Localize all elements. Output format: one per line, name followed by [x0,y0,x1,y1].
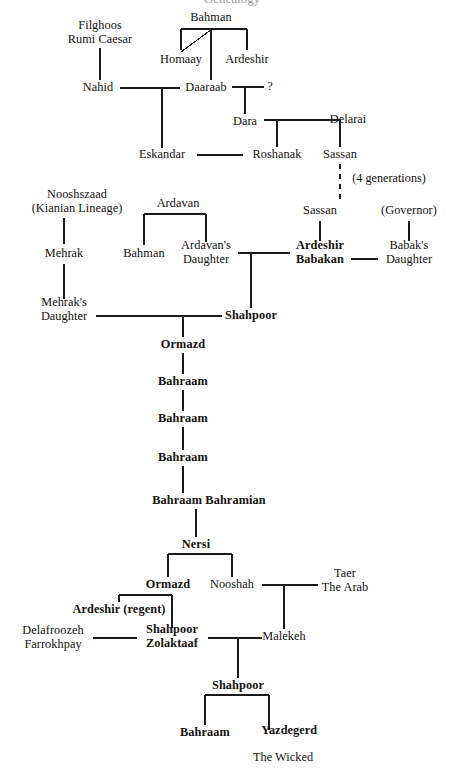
node-four-generations-note: (4 generations) [352,172,426,186]
node-nooshszaad: Nooshszaad (Kianian Lineage) [32,188,123,216]
node-ardeshir-babakan: Ardeshir Babakan [296,239,344,267]
cropped-heading: Genealogy [204,0,260,7]
node-babaks-daughter: Babak's Daughter [386,239,432,267]
node-ardavan: Ardavan [157,197,200,211]
node-bahman-second: Bahman [123,247,164,261]
line-homaay-diagonal [181,29,212,52]
node-homaay: Homaay [160,53,202,67]
node-governor: (Governor) [381,204,437,218]
node-nersi: Nersi [182,538,211,552]
node-filghoos: Filghoos Rumi Caesar [68,19,132,47]
node-shahpoor-second: Shahpoor [212,679,264,693]
node-nooshah: Nooshah [210,578,254,592]
node-ardavans-daughter: Ardavan's Daughter [181,239,231,267]
yazdegerd-epithet: The Wicked [253,751,313,765]
node-delafroozeh-farrokhpay: Delafroozeh Farrokhpay [22,624,83,652]
node-dara: Dara [233,115,257,129]
node-yazdegerd-the-wicked: Yazdegerd The Wicked [249,710,317,765]
connector-lines [0,0,463,772]
node-daaraab: Daaraab [185,81,226,95]
node-nahid: Nahid [83,81,113,95]
node-mehraks-daughter: Mehrak's Daughter [41,296,87,324]
node-ormazd-first: Ormazd [161,338,205,352]
node-sassan-first: Sassan [323,148,357,162]
node-ardeshir-top: Ardeshir [225,53,268,67]
node-bahraam-first: Bahraam [158,375,208,389]
node-roshanak: Roshanak [253,148,302,162]
node-ormazd-second: Ormazd [146,578,190,592]
node-shahpoor-first: Shahpoor [225,309,277,323]
node-ardeshir-regent: Ardeshir (regent) [72,603,165,617]
node-delarai: Delarai [330,113,367,127]
node-bahman-top: Bahman [190,11,231,25]
node-eskandar: Eskandar [139,148,185,162]
yazdegerd-name: Yazdegerd [261,723,317,737]
node-shahpoor-zolaktaaf: Shahpoor Zolaktaaf [146,623,198,651]
genealogy-chart: Genealogy [0,0,463,772]
node-bahraam-third: Bahraam [158,451,208,465]
node-unknown-spouse: ? [267,80,273,94]
node-sassan-second: Sassan [303,204,337,218]
node-mehrak: Mehrak [45,247,84,261]
node-bahraam-fourth: Bahraam [180,726,230,740]
node-taer-the-arab: Taer The Arab [322,567,369,595]
node-malekeh: Malekeh [262,630,305,644]
node-bahraam-bahramian: Bahraam Bahramian [152,494,265,508]
node-bahraam-second: Bahraam [158,412,208,426]
